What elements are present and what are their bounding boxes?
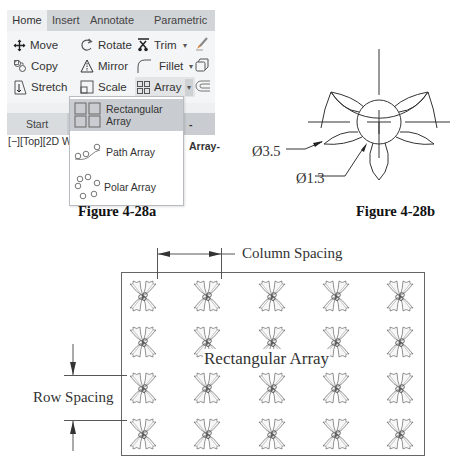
row-spacing-label: Row Spacing xyxy=(33,389,113,406)
rectangular-array-title: Rectangular Array xyxy=(203,349,330,369)
column-spacing-label: Column Spacing xyxy=(242,245,342,262)
